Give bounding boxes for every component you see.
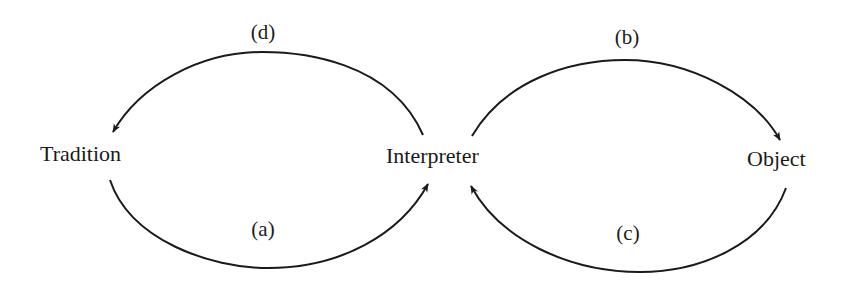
hermeneutic-circle-diagram: Tradition Interpreter Object (d) (a) (b)… (0, 0, 856, 289)
node-tradition: Tradition (40, 143, 121, 165)
edge-label-c: (c) (616, 223, 639, 244)
edge-label-d: (d) (251, 22, 276, 43)
edge-b-arrow (472, 60, 780, 140)
edge-label-b: (b) (615, 27, 640, 48)
node-object: Object (747, 148, 806, 170)
edge-d-arrow (113, 52, 423, 135)
node-interpreter: Interpreter (386, 145, 479, 167)
edge-label-a: (a) (251, 219, 274, 240)
